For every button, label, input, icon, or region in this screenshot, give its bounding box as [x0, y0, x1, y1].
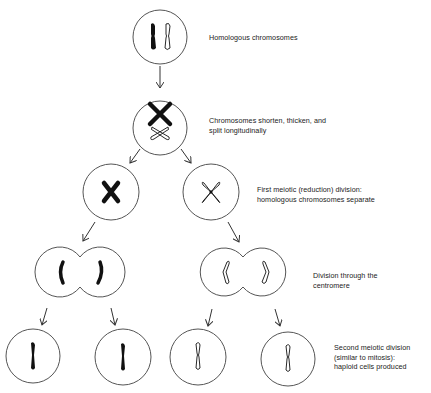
chromatid-dark-icon — [61, 262, 64, 283]
label-line: Division through the — [313, 271, 378, 281]
chromosome-light-icon — [165, 23, 170, 49]
label-line: Chromosomes shorten, thicken, and — [209, 116, 326, 126]
cell-thickened — [133, 101, 187, 155]
arrow-right — [181, 149, 191, 163]
label-centromere-division: Division through the centromere — [313, 271, 378, 290]
chromatid-dark-icon — [121, 343, 125, 370]
chromatid-light-icon — [286, 345, 290, 372]
arrow-down-left — [83, 222, 95, 241]
arrow — [208, 309, 212, 326]
label-line: split longitudinally — [209, 126, 326, 136]
chromatid-pair-dark-icon — [150, 104, 170, 124]
haploid-cell — [170, 329, 226, 385]
chromatid-dark-icon — [98, 262, 102, 283]
chromosome-dark-icon — [151, 23, 156, 49]
label-line: (similar to mitosis): — [334, 353, 410, 363]
chromatid-pair-light-icon — [151, 127, 169, 140]
arrow-down-right — [228, 222, 239, 242]
chromatid-light-icon — [262, 261, 269, 283]
label-line: haploid cells produced — [334, 362, 410, 372]
chromosome-light-x-icon — [202, 182, 220, 202]
label-line: centromere — [313, 281, 378, 291]
arrow — [111, 308, 115, 325]
haploid-cell — [95, 329, 151, 385]
label-line: First meiotic (reduction) division: — [257, 185, 375, 195]
label-homologous: Homologous chromosomes — [209, 33, 298, 43]
chromatid-light-icon — [196, 343, 200, 370]
arrow-left — [130, 149, 140, 163]
label-second-division: Second meiotic division (similar to mito… — [334, 343, 410, 372]
label-first-division: First meiotic (reduction) division: homo… — [257, 185, 375, 204]
label-line: Homologous chromosomes — [209, 33, 298, 43]
cell-homologous — [133, 10, 187, 64]
cell-first-division-right — [183, 164, 239, 220]
label-shorten: Chromosomes shorten, thicken, and split … — [209, 116, 326, 135]
chromatid-light-icon — [223, 261, 229, 283]
label-line: Second meiotic division — [334, 343, 410, 353]
arrow — [42, 308, 47, 325]
arrow — [275, 309, 280, 326]
haploid-cell — [261, 332, 315, 386]
dividing-cell-right — [200, 248, 285, 296]
cell-first-division-left — [83, 164, 139, 220]
dividing-cell-left — [35, 247, 125, 297]
chromatid-dark-icon — [31, 342, 35, 369]
haploid-cell — [6, 329, 60, 383]
label-line: homologous chromosomes separate — [257, 195, 375, 205]
chromosome-dark-x-icon — [104, 183, 118, 201]
